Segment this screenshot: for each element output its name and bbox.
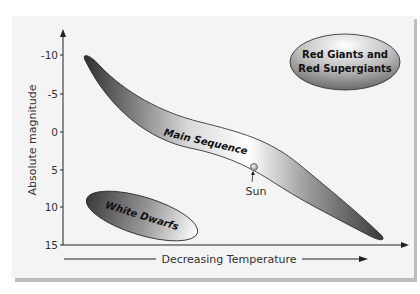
red-giants-region: [290, 34, 400, 90]
y-tick-label: 5: [51, 164, 58, 176]
y-tick-label: -10: [41, 49, 58, 61]
red-giants-label-line2: Red Supergiants: [298, 63, 392, 74]
hr-diagram: -10 -5 0 5 10 15 Absolute magnitude Decr…: [0, 0, 420, 294]
y-axis-title: Absolute magnitude: [26, 84, 39, 195]
y-tick-label: 0: [51, 126, 58, 138]
y-tick-label: -5: [48, 88, 58, 100]
sun-marker: [251, 164, 258, 171]
y-tick-label: 15: [45, 239, 58, 251]
y-tick-label: 10: [45, 201, 58, 213]
x-axis-title: Decreasing Temperature: [162, 253, 297, 266]
sun-label: Sun: [246, 185, 267, 198]
red-giants-label-line1: Red Giants and: [302, 49, 388, 60]
